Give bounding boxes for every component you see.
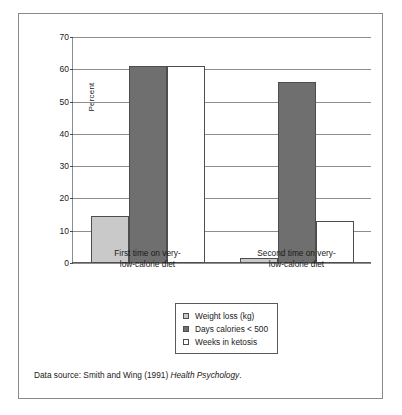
legend-item-label: Days calories < 500 [195, 324, 268, 334]
category-label-line: Second time on very- [222, 248, 372, 259]
legend-item-label: Weeks in ketosis [195, 337, 257, 347]
y-axis-tick-mark [70, 69, 73, 70]
x-axis-category-label: First time on very-low-calorie diet [73, 248, 223, 270]
y-axis-tick-mark [70, 198, 73, 199]
y-axis-tick-mark [70, 134, 73, 135]
y-axis-tick-label: 40 [29, 130, 69, 139]
source-note-suffix: . [239, 370, 241, 380]
y-axis-tick-mark [70, 166, 73, 167]
x-axis-category-label: Second time on very-low-calorie diet [222, 248, 372, 270]
gridline [73, 198, 371, 199]
bar [278, 82, 316, 263]
chart-legend: Weight loss (kg)Days calories < 500Weeks… [175, 303, 278, 354]
legend-item[interactable]: Weight loss (kg) [183, 309, 268, 322]
legend-item[interactable]: Weeks in ketosis [183, 335, 268, 348]
y-axis-tick-label: 70 [29, 33, 69, 42]
y-axis-tick-label: 50 [29, 97, 69, 106]
category-label-line: low-calorie diet [222, 259, 372, 270]
y-axis-tick-mark [70, 37, 73, 38]
gridline [73, 134, 371, 135]
gridline [73, 37, 371, 38]
y-axis-tick-label: 10 [29, 226, 69, 235]
y-axis-tick-mark [70, 102, 73, 103]
bar [167, 66, 205, 263]
y-axis-tick-label: 0 [29, 259, 69, 268]
figure-frame: Percent 010203040506070 First time on ve… [18, 13, 383, 399]
legend-item[interactable]: Days calories < 500 [183, 322, 268, 335]
gridline [73, 102, 371, 103]
legend-swatch-icon [183, 339, 189, 345]
source-note-prefix: Data source: Smith and Wing (1991) [34, 370, 171, 380]
gridline [73, 69, 371, 70]
y-axis-tick-mark [70, 231, 73, 232]
plot-area: Percent 010203040506070 [73, 37, 371, 263]
y-axis-tick-label: 30 [29, 162, 69, 171]
y-axis-tick-label: 20 [29, 194, 69, 203]
legend-item-label: Weight loss (kg) [195, 311, 254, 321]
category-label-line: First time on very- [73, 248, 223, 259]
y-axis-tick-label: 60 [29, 65, 69, 74]
category-label-line: low-calorie diet [73, 259, 223, 270]
legend-swatch-icon [183, 326, 189, 332]
bar [129, 66, 167, 263]
source-note-journal: Health Psychology [171, 370, 240, 380]
gridline [73, 166, 371, 167]
y-axis-line [72, 37, 73, 263]
legend-swatch-icon [183, 313, 189, 319]
source-note: Data source: Smith and Wing (1991) Healt… [34, 370, 242, 380]
